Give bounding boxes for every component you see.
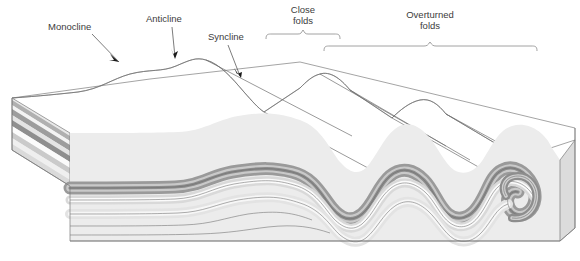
- label-monocline: Monocline: [48, 21, 91, 32]
- label-close-folds-line1: Close: [291, 4, 315, 15]
- ridge-crest-1: [12, 59, 264, 112]
- geology-block-diagram: Monocline Anticline Syncline Close folds…: [0, 0, 580, 261]
- label-overturned-folds-line1: Overturned: [406, 9, 454, 20]
- callout-overturned-folds: Overturned folds: [324, 9, 537, 51]
- callout-anticline: Anticline: [146, 13, 182, 59]
- label-close-folds-line2: folds: [293, 15, 313, 26]
- arrowhead-monocline: [109, 54, 119, 62]
- callout-monocline: Monocline: [48, 21, 119, 62]
- brace-overturned-folds: [324, 42, 537, 51]
- leader-monocline: [92, 34, 119, 62]
- right-end-face: [560, 140, 575, 241]
- label-syncline: Syncline: [208, 31, 244, 42]
- brace-close-folds: [266, 30, 340, 39]
- diagram-canvas: Monocline Anticline Syncline Close folds…: [0, 0, 580, 261]
- left-side-face: [12, 98, 70, 186]
- leader-anticline: [172, 27, 175, 57]
- label-overturned-folds-line2: folds: [420, 20, 440, 31]
- callout-close-folds: Close folds: [266, 4, 340, 39]
- label-anticline: Anticline: [146, 13, 182, 24]
- block-body: [12, 59, 575, 242]
